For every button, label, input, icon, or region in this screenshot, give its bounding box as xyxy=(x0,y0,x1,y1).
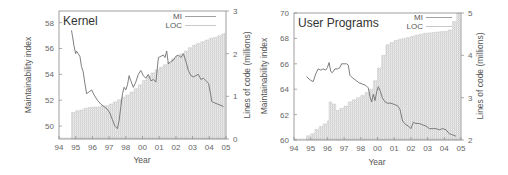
svg-text:1: 1 xyxy=(233,92,238,101)
svg-text:56: 56 xyxy=(45,44,54,53)
svg-text:01: 01 xyxy=(155,143,164,152)
kernel-legend-loc: LOC xyxy=(166,21,183,30)
svg-text:03: 03 xyxy=(423,144,432,153)
svg-text:3: 3 xyxy=(233,7,238,16)
svg-text:94: 94 xyxy=(55,143,64,152)
kernel-x-label: Year xyxy=(133,155,150,165)
svg-text:97: 97 xyxy=(340,144,349,153)
kernel-chart: 9495969798000102030405 5052545658 0123 K… xyxy=(23,7,252,165)
svg-text:98: 98 xyxy=(121,143,130,152)
svg-text:2: 2 xyxy=(468,136,473,145)
svg-text:04: 04 xyxy=(440,144,449,153)
svg-text:94: 94 xyxy=(290,144,299,153)
kernel-legend-mi: MI xyxy=(173,12,182,21)
svg-text:52: 52 xyxy=(45,96,54,105)
user-programs-y2-label: Lines of code (millions) xyxy=(475,32,485,119)
user-programs-legend-loc: LOC xyxy=(407,22,424,31)
svg-text:02: 02 xyxy=(406,144,415,153)
svg-text:3: 3 xyxy=(468,94,473,103)
svg-text:01: 01 xyxy=(390,144,399,153)
kernel-y2-label: Lines of code (millions) xyxy=(242,31,252,118)
svg-text:98: 98 xyxy=(356,144,365,153)
svg-text:58: 58 xyxy=(45,19,54,28)
kernel-title: Kernel xyxy=(63,14,98,28)
svg-text:00: 00 xyxy=(373,144,382,153)
svg-text:70: 70 xyxy=(280,9,289,18)
kernel-y2-axis: 0123 xyxy=(226,7,238,144)
user-programs-chart: 9495969798000102030405 606264666870 2345… xyxy=(259,9,485,167)
svg-text:2: 2 xyxy=(233,50,238,59)
svg-text:97: 97 xyxy=(105,143,114,152)
svg-text:50: 50 xyxy=(45,122,54,131)
user-programs-x-label: Year xyxy=(368,157,385,167)
kernel-y-label: Maintainability index xyxy=(23,36,33,113)
kernel-y-axis: 5052545658 xyxy=(45,19,62,131)
svg-text:66: 66 xyxy=(280,60,289,69)
user-programs-y2-axis: 2345 xyxy=(461,9,473,145)
svg-text:54: 54 xyxy=(45,70,54,79)
svg-text:05: 05 xyxy=(222,143,231,152)
svg-text:95: 95 xyxy=(306,144,315,153)
svg-text:60: 60 xyxy=(280,136,289,145)
svg-text:62: 62 xyxy=(280,111,289,120)
user-programs-loc-area xyxy=(307,13,461,140)
svg-text:68: 68 xyxy=(280,34,289,43)
svg-text:00: 00 xyxy=(138,143,147,152)
kernel-loc-area xyxy=(72,33,226,139)
user-programs-y-axis: 606264666870 xyxy=(280,9,297,145)
svg-text:4: 4 xyxy=(468,51,473,60)
user-programs-y-label: Maintainability index xyxy=(259,37,269,114)
svg-text:64: 64 xyxy=(280,85,289,94)
svg-text:95: 95 xyxy=(71,143,80,152)
svg-text:5: 5 xyxy=(468,9,473,18)
svg-text:0: 0 xyxy=(233,135,238,144)
chart-canvas: 9495969798000102030405 5052545658 0123 K… xyxy=(0,0,508,175)
svg-text:96: 96 xyxy=(88,143,97,152)
user-programs-title: User Programs xyxy=(298,16,379,30)
user-programs-legend-mi: MI xyxy=(414,13,423,22)
svg-text:05: 05 xyxy=(457,144,466,153)
svg-text:04: 04 xyxy=(205,143,214,152)
svg-text:02: 02 xyxy=(171,143,180,152)
svg-text:96: 96 xyxy=(323,144,332,153)
svg-text:03: 03 xyxy=(188,143,197,152)
